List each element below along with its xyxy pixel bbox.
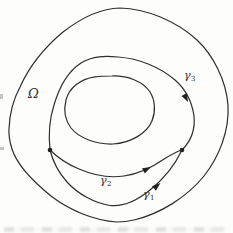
right-junction-dot	[180, 148, 185, 153]
gamma1-subscript: 1	[150, 194, 154, 202]
gamma3-curve	[49, 56, 194, 150]
gamma2-arrowhead	[142, 164, 152, 173]
gamma1-curve	[50, 150, 182, 206]
gamma3-subscript: 3	[191, 75, 195, 83]
omega-symbol: Ω	[28, 86, 39, 101]
gamma1-symbol: γ	[143, 188, 150, 201]
left-junction-dot	[48, 148, 53, 153]
scan-artifact-strip	[4, 227, 230, 232]
gamma2-symbol: γ	[100, 174, 107, 187]
outer-boundary-curve	[9, 8, 228, 222]
gamma2-subscript: 2	[107, 180, 111, 188]
gamma2-label: γ2	[100, 175, 112, 188]
omega-region-label: Ω	[28, 87, 39, 100]
gamma1-label: γ1	[143, 189, 155, 202]
scan-artifact-speck	[0, 94, 3, 99]
gamma3-symbol: γ	[184, 69, 191, 82]
inner-curve	[65, 76, 155, 144]
curves-drawing	[0, 0, 233, 233]
math-diagram-figure: Ω γ3 γ2 γ1	[0, 0, 233, 233]
gamma3-label: γ3	[184, 70, 196, 83]
gamma2-curve	[50, 150, 182, 177]
scan-artifact-speck	[0, 147, 4, 150]
